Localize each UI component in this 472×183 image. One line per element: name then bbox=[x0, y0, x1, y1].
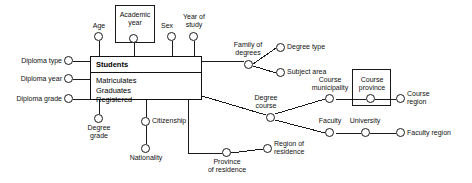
label-course-municipality: Course municipality bbox=[306, 76, 354, 92]
fact-measure-item: Matriculates bbox=[96, 76, 201, 86]
node-degree-type[interactable] bbox=[276, 43, 285, 52]
node-citizenship[interactable] bbox=[141, 117, 150, 126]
node-diploma-grade[interactable] bbox=[64, 94, 73, 103]
node-diploma-type[interactable] bbox=[64, 56, 73, 65]
fact-measure-list: Matriculates Graduates Registered bbox=[91, 73, 201, 107]
connector-lines bbox=[0, 0, 472, 183]
label-year-of-study: Year of study bbox=[178, 13, 210, 29]
node-family-of-degrees[interactable] bbox=[244, 60, 253, 69]
label-family-of-degrees: Family of degrees bbox=[225, 41, 271, 57]
fact-measure-item: Registered bbox=[96, 95, 201, 105]
node-degree-grade[interactable] bbox=[94, 114, 103, 123]
node-nationality[interactable] bbox=[141, 144, 150, 153]
label-sex: Sex bbox=[155, 22, 179, 30]
label-degree-type: Degree type bbox=[287, 43, 335, 51]
node-region-of-residence[interactable] bbox=[263, 144, 272, 153]
fact-table-students[interactable]: Students Matriculates Graduates Register… bbox=[90, 56, 202, 100]
label-province-of-residence: Province of residence bbox=[203, 158, 251, 174]
fact-table-title: Students bbox=[91, 57, 201, 73]
fact-measure-item: Graduates bbox=[96, 86, 201, 96]
label-age: Age bbox=[82, 22, 116, 30]
node-faculty[interactable] bbox=[325, 128, 334, 137]
node-course-region[interactable] bbox=[396, 94, 405, 103]
label-degree-grade: Degree grade bbox=[80, 124, 118, 140]
label-course-region: Course region bbox=[407, 90, 447, 106]
node-course-province[interactable] bbox=[366, 94, 375, 103]
label-diploma-grade: Diploma grade bbox=[4, 95, 62, 103]
label-citizenship: Citizenship bbox=[152, 117, 200, 125]
node-province-of-residence[interactable] bbox=[222, 148, 231, 157]
dfm-diagram-canvas: Students Matriculates Graduates Register… bbox=[0, 0, 472, 183]
label-course-province: Course province bbox=[353, 76, 391, 92]
label-academic-year: Academic year bbox=[116, 11, 154, 27]
node-subject-area[interactable] bbox=[276, 68, 285, 77]
node-year-of-study[interactable] bbox=[189, 32, 198, 41]
label-region-of-residence: Region of residence bbox=[274, 140, 320, 156]
label-university: University bbox=[344, 117, 386, 125]
node-faculty-region[interactable] bbox=[396, 128, 405, 137]
label-faculty-region: Faculty region bbox=[407, 129, 467, 137]
node-degree-course[interactable] bbox=[266, 113, 275, 122]
node-sex[interactable] bbox=[167, 32, 176, 41]
label-diploma-year: Diploma year bbox=[8, 75, 62, 83]
node-university[interactable] bbox=[361, 128, 370, 137]
node-course-municipality[interactable] bbox=[325, 94, 334, 103]
node-academic-year[interactable] bbox=[129, 34, 138, 43]
label-subject-area: Subject area bbox=[287, 68, 335, 76]
label-diploma-type: Diploma type bbox=[8, 57, 62, 65]
node-age[interactable] bbox=[94, 32, 103, 41]
label-nationality: Nationality bbox=[124, 154, 168, 162]
label-degree-course: Degree course bbox=[246, 94, 286, 110]
node-diploma-year[interactable] bbox=[64, 74, 73, 83]
